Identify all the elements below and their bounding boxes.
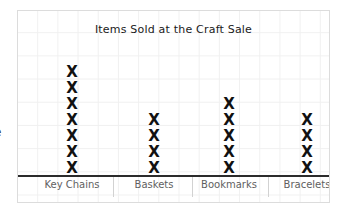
x-mark: X bbox=[223, 144, 235, 160]
x-mark: X bbox=[301, 144, 313, 160]
x-mark: X bbox=[301, 160, 313, 176]
x-mark: X bbox=[66, 112, 78, 128]
category-label-bracelets: Bracelets bbox=[284, 179, 330, 190]
x-mark: X bbox=[66, 160, 78, 176]
x-mark: X bbox=[148, 160, 160, 176]
x-stack-bookmarks: XXXXX bbox=[214, 96, 244, 176]
category-label-key-chains: Key Chains bbox=[44, 179, 99, 190]
category-label-band: Key ChainsBasketsBookmarksBracelets bbox=[18, 177, 329, 197]
label-cell-divider bbox=[268, 177, 269, 197]
x-stack-bracelets: XXXX bbox=[292, 112, 322, 176]
left-margin-glyph-text: e bbox=[0, 126, 1, 138]
x-mark: X bbox=[148, 144, 160, 160]
x-mark: X bbox=[66, 80, 78, 96]
x-mark: X bbox=[66, 96, 78, 112]
x-mark: X bbox=[66, 64, 78, 80]
category-label-baskets: Baskets bbox=[135, 179, 174, 190]
x-mark: X bbox=[223, 96, 235, 112]
x-mark: X bbox=[223, 160, 235, 176]
plot-area: XXXXXXXXXXXXXXXXXXXX bbox=[18, 11, 329, 176]
x-mark: X bbox=[223, 128, 235, 144]
left-margin-clipped-glyph: e bbox=[0, 126, 10, 138]
x-mark: X bbox=[148, 128, 160, 144]
x-stack-baskets: XXXX bbox=[139, 112, 169, 176]
x-mark: X bbox=[223, 112, 235, 128]
chart-frame: Items Sold at the Craft Sale XXXXXXXXXXX… bbox=[17, 10, 330, 203]
category-label-bookmarks: Bookmarks bbox=[201, 179, 257, 190]
label-cell-divider bbox=[192, 177, 193, 197]
x-mark: X bbox=[148, 112, 160, 128]
label-cell-divider bbox=[113, 177, 114, 197]
x-mark: X bbox=[301, 112, 313, 128]
x-mark: X bbox=[66, 144, 78, 160]
x-mark: X bbox=[66, 128, 78, 144]
x-stack-key-chains: XXXXXXX bbox=[57, 64, 87, 176]
x-mark: X bbox=[301, 128, 313, 144]
